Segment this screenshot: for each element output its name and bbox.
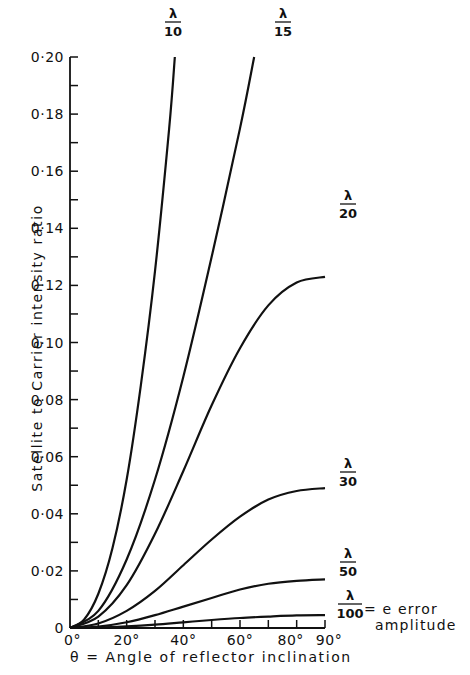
curve-label-100: λ100 — [336, 588, 363, 621]
note-line-1: = e error — [364, 601, 438, 617]
lambda-symbol: λ — [346, 588, 354, 603]
curves — [70, 57, 325, 628]
curve-labels: λ10λ15λ20λ30λ50λ100= e erroramplitude — [164, 6, 457, 633]
x-tick-label: 0° — [64, 632, 81, 648]
y-tick-label: 0·20 — [31, 49, 64, 65]
denominator: 50 — [339, 564, 357, 579]
x-axis-title: θ = Angle of reflector inclination — [70, 649, 352, 665]
lambda-symbol: λ — [169, 6, 177, 21]
curve-label-50: λ50 — [339, 546, 357, 579]
curve-20 — [70, 277, 325, 628]
chart: 00·020·040·060·080·100·120·140·160·180·2… — [0, 0, 470, 675]
x-tick-label: 60° — [227, 632, 253, 648]
y-tick-label: 0·18 — [31, 106, 64, 122]
denominator: 15 — [274, 24, 292, 39]
curve-label-10: λ10 — [164, 6, 182, 39]
denominator: 20 — [339, 206, 357, 221]
note-line-2: amplitude — [375, 617, 457, 633]
x-tick-label: 40° — [170, 632, 196, 648]
y-tick-label: 0·04 — [31, 506, 64, 522]
curve-15 — [70, 57, 254, 628]
y-tick-label: 0·16 — [31, 163, 64, 179]
y-tick-label: 0 — [55, 620, 64, 636]
curve-label-30: λ30 — [339, 456, 357, 489]
x-tick-label: 90° — [316, 632, 342, 648]
x-tick-label: 20° — [114, 632, 140, 648]
denominator: 100 — [336, 606, 363, 621]
axes: 00·020·040·060·080·100·120·140·160·180·2… — [31, 49, 342, 648]
error-amplitude-note: = e erroramplitude — [364, 601, 457, 633]
curve-10 — [70, 57, 175, 628]
curve-100 — [70, 615, 325, 628]
y-tick-label: 0·02 — [31, 563, 64, 579]
x-tick-label: 80° — [278, 632, 304, 648]
curve-label-20: λ20 — [339, 188, 357, 221]
curve-label-15: λ15 — [274, 6, 292, 39]
y-axis-title: Satellite to Carrier intensity ratio — [29, 204, 45, 492]
lambda-symbol: λ — [344, 188, 352, 203]
denominator: 30 — [339, 474, 357, 489]
lambda-symbol: λ — [279, 6, 287, 21]
denominator: 10 — [164, 24, 182, 39]
lambda-symbol: λ — [344, 456, 352, 471]
lambda-symbol: λ — [344, 546, 352, 561]
